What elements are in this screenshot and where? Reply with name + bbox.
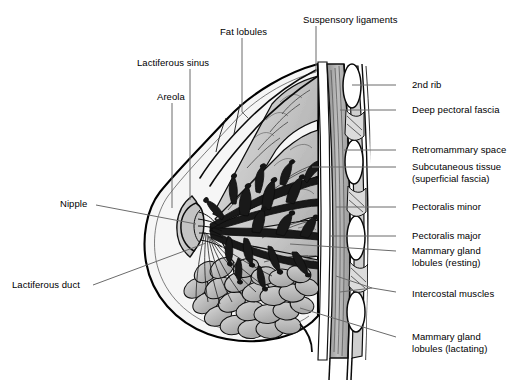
breast-anatomy-figure: Suspensory ligaments Fat lobules Lactife…: [0, 0, 530, 387]
label-lactiferous-duct: Lactiferous duct: [12, 279, 80, 291]
breast-body: [145, 64, 321, 352]
label-nipple: Nipple: [60, 198, 87, 210]
label-pectoralis-major: Pectoralis major: [412, 230, 481, 242]
rib-fourth: [347, 216, 365, 260]
label-lactiferous-sinus: Lactiferous sinus: [137, 57, 209, 69]
label-deep-pectoral-fascia: Deep pectoral fascia: [412, 104, 500, 116]
rib-second: [343, 64, 361, 108]
label-suspensory-ligaments: Suspensory ligaments: [303, 14, 397, 26]
label-intercostal-muscles: Intercostal muscles: [412, 288, 494, 300]
rib-fifth: [347, 292, 365, 332]
label-mammary-gland-lobules-lactating: Mammary gland lobules (lactating): [412, 331, 487, 354]
rib-third: [345, 140, 363, 184]
label-retromammary-space: Retromammary space: [412, 144, 506, 156]
label-pectoralis-minor: Pectoralis minor: [412, 201, 481, 213]
label-2nd-rib: 2nd rib: [412, 79, 441, 91]
label-areola: Areola: [157, 91, 185, 103]
anatomy-illustration: [0, 0, 530, 387]
chest-wall-lower-lines: [329, 358, 352, 380]
label-subcutaneous-tissue: Subcutaneous tissue (superficial fascia): [412, 161, 501, 184]
label-mammary-gland-lobules-resting: Mammary gland lobules (resting): [412, 245, 481, 268]
label-fat-lobules: Fat lobules: [220, 26, 267, 38]
